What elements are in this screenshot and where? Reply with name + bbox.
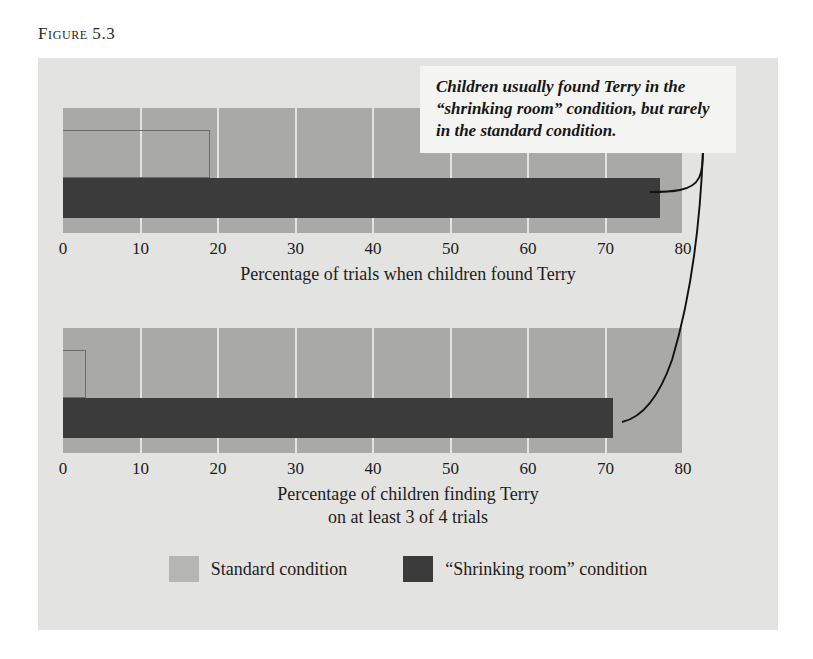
- callout-box: Children usually found Terry in the “shr…: [420, 66, 736, 153]
- figure-label-word: Figure: [38, 24, 88, 43]
- x-axis-title-chart-2-line1: Percentage of children finding Terry: [38, 483, 778, 506]
- legend-item-standard: Standard condition: [169, 556, 347, 582]
- x-tick-label-80: 80: [675, 239, 692, 259]
- legend-label-shrinking-room: “Shrinking room” condition: [445, 559, 647, 580]
- x-axis-title-chart-2: Percentage of children finding Terry on …: [38, 483, 778, 528]
- x-tick-label-20: 20: [210, 239, 227, 259]
- figure-label: Figure 5.3: [38, 24, 115, 44]
- x-tick-label-70: 70: [597, 239, 614, 259]
- x-tick-label-10: 10: [132, 459, 149, 479]
- figure-label-number: 5.3: [92, 24, 115, 43]
- x-tick-label-30: 30: [287, 459, 304, 479]
- bar-shrinking-room-condition: [63, 398, 613, 438]
- x-tick-label-40: 40: [365, 459, 382, 479]
- x-axis-title-chart-2-line2: on at least 3 of 4 trials: [38, 506, 778, 529]
- callout-text: Children usually found Terry in the “shr…: [436, 76, 722, 141]
- x-tick-label-20: 20: [210, 459, 227, 479]
- bar-standard-condition: [63, 130, 210, 178]
- x-tick-label-80: 80: [675, 459, 692, 479]
- x-tick-label-0: 0: [59, 239, 68, 259]
- x-tick-label-60: 60: [520, 459, 537, 479]
- x-axis-title-chart-1: Percentage of trials when children found…: [38, 263, 778, 286]
- legend-swatch-shrinking-room-icon: [403, 556, 433, 582]
- bar-shrinking-room-condition: [63, 178, 660, 218]
- legend-swatch-standard-icon: [169, 556, 199, 582]
- x-tick-label-40: 40: [365, 239, 382, 259]
- x-tick-label-30: 30: [287, 239, 304, 259]
- bar-standard-condition: [63, 350, 86, 398]
- x-tick-label-10: 10: [132, 239, 149, 259]
- legend-item-shrinking-room: “Shrinking room” condition: [403, 556, 647, 582]
- x-tick-label-60: 60: [520, 239, 537, 259]
- gridline-80: [682, 328, 684, 453]
- chart-children-finding-terry: 01020304050607080 Percentage of children…: [38, 313, 778, 553]
- plot-area-chart-2: [63, 328, 683, 453]
- x-tick-label-50: 50: [442, 459, 459, 479]
- chart-legend: Standard condition “Shrinking room” cond…: [38, 556, 778, 582]
- x-tick-label-0: 0: [59, 459, 68, 479]
- x-tick-label-50: 50: [442, 239, 459, 259]
- legend-label-standard: Standard condition: [211, 559, 347, 580]
- x-tick-label-70: 70: [597, 459, 614, 479]
